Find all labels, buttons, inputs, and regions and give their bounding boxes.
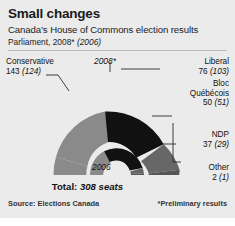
label-ndp-name: NDP [203,130,229,140]
label-other: Other 2 (1) [209,163,229,182]
outer-ring-2008 [53,111,180,175]
label-conservative: Conservative 143 (124) [6,57,54,76]
label-bloc-name-line2: Québécois [190,89,229,99]
label-other-values: 2 (1) [209,173,229,183]
label-liberal: Liberal 76 (103) [198,57,229,76]
label-conservative-value: 143 [6,67,20,76]
label-bloc: Bloc Québécois 50 (51) [190,79,229,108]
label-conservative-name: Conservative [6,57,54,67]
parliament-caption: Parliament, 2008* (2006) [8,37,101,47]
total-seats: Total: 308 seats [0,181,175,192]
label-ndp-prev: (29) [214,140,229,149]
subtitle: Canada’s House of Commons election resul… [8,24,198,35]
preliminary-note: *Preliminary results [158,199,227,208]
year-label-2008: 2008* [94,56,116,66]
label-bloc-values: 50 (51) [190,98,229,108]
total-value: 308 seats [80,181,123,192]
label-other-prev: (1) [219,173,229,182]
label-bloc-prev: (51) [214,98,229,107]
label-conservative-prev: (124) [22,67,41,76]
page-title: Small changes [8,6,100,21]
parliament-year: Parliament, 2008* [8,37,75,47]
leader-conservative [46,75,69,91]
source-note: Source: Elections Canada [8,199,99,208]
label-other-value: 2 [212,173,217,182]
year-label-2006: 2006 [92,162,111,172]
label-liberal-values: 76 (103) [198,67,229,77]
label-bloc-value: 50 [203,98,212,107]
label-ndp-values: 37 (29) [203,140,229,150]
total-label: Total: [52,181,77,192]
label-liberal-value: 76 [198,67,207,76]
header-divider [8,50,227,51]
label-ndp: NDP 37 (29) [203,130,229,149]
parliament-prev-year: (2006) [77,37,101,47]
leader-other [173,123,181,162]
label-ndp-value: 37 [203,140,212,149]
infographic-panel: Small changes Canada’s House of Commons … [0,0,235,218]
label-liberal-prev: (103) [210,67,229,76]
label-conservative-values: 143 (124) [6,67,54,77]
label-bloc-name-line1: Bloc [190,79,229,89]
label-other-name: Other [209,163,229,173]
label-liberal-name: Liberal [198,57,229,67]
